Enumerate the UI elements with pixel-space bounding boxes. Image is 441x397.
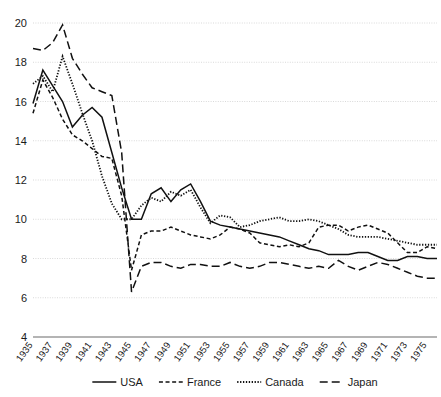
- legend-label-france: France: [187, 376, 221, 388]
- legend-label-usa: USA: [120, 376, 143, 388]
- y-tick-label-10: 10: [15, 213, 27, 225]
- series-line-japan: [33, 25, 437, 292]
- x-tick-label-1949: 1949: [151, 340, 172, 364]
- legend-label-japan: Japan: [348, 376, 378, 388]
- y-tick-label-20: 20: [15, 17, 27, 29]
- y-tick-label-8: 8: [21, 253, 27, 265]
- x-tick-label-1961: 1961: [270, 340, 291, 364]
- x-tick-label-1945: 1945: [112, 340, 133, 364]
- series-line-usa: [33, 70, 437, 260]
- x-axis-labels-group: 1935193719391941194319451947194919511953…: [14, 340, 429, 364]
- line-chart-figure: 468101214161820 193519371939194119431945…: [0, 0, 441, 397]
- y-tick-label-14: 14: [15, 135, 27, 147]
- x-tick-label-1943: 1943: [92, 340, 113, 364]
- x-tick-label-1951: 1951: [171, 340, 192, 364]
- x-tick-label-1959: 1959: [250, 340, 271, 364]
- x-tick-label-1955: 1955: [211, 340, 232, 364]
- x-tick-label-1965: 1965: [309, 340, 330, 364]
- chart-canvas: 468101214161820 193519371939194119431945…: [0, 0, 441, 397]
- x-tick-label-1963: 1963: [289, 340, 310, 364]
- chart-legend: USAFranceCanadaJapan: [92, 376, 377, 388]
- y-axis-labels-group: 468101214161820: [15, 17, 27, 343]
- x-tick-label-1947: 1947: [132, 340, 153, 364]
- x-tick-label-1939: 1939: [53, 340, 74, 364]
- legend-label-canada: Canada: [265, 376, 304, 388]
- x-tick-label-1967: 1967: [329, 340, 350, 364]
- x-tick-label-1941: 1941: [73, 340, 94, 364]
- x-tick-label-1969: 1969: [349, 340, 370, 364]
- series-line-canada: [33, 56, 437, 244]
- x-tick-label-1935: 1935: [14, 340, 35, 364]
- x-tick-label-1953: 1953: [191, 340, 212, 364]
- x-tick-label-1937: 1937: [33, 340, 54, 364]
- y-tick-label-12: 12: [15, 174, 27, 186]
- y-tick-label-18: 18: [15, 56, 27, 68]
- y-tick-label-16: 16: [15, 96, 27, 108]
- x-tick-label-1957: 1957: [230, 340, 251, 364]
- x-tick-label-1973: 1973: [388, 340, 409, 364]
- data-series-group: [33, 25, 437, 292]
- y-tick-label-6: 6: [21, 292, 27, 304]
- x-tick-label-1971: 1971: [368, 340, 389, 364]
- x-tick-label-1975: 1975: [408, 340, 429, 364]
